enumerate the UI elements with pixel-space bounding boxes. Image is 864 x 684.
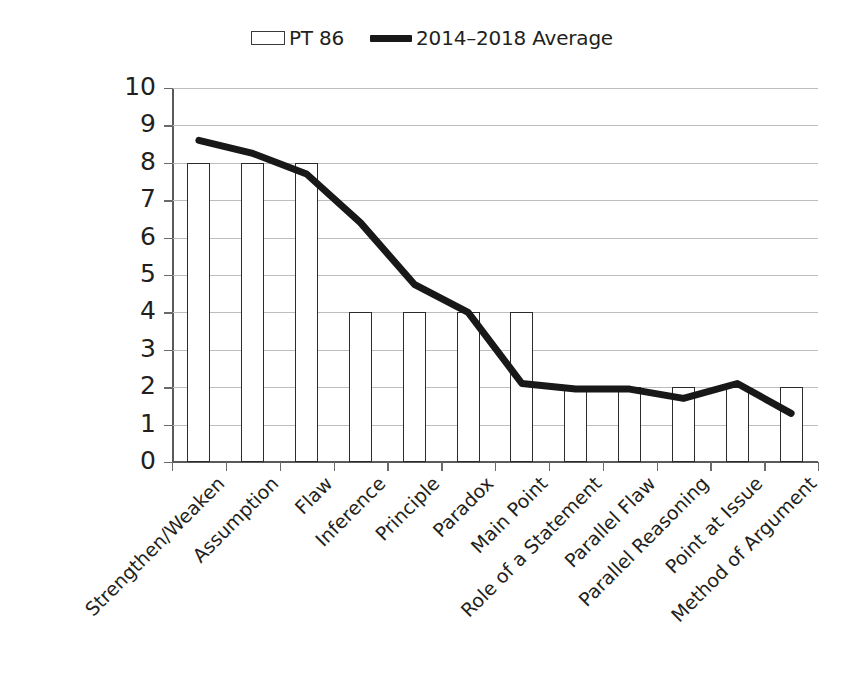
y-axis-tick-label: 8 xyxy=(116,149,156,174)
y-axis-tick xyxy=(164,312,173,313)
x-axis-tick xyxy=(172,462,173,471)
y-axis-tick-label: 3 xyxy=(116,336,156,361)
x-axis-tick xyxy=(549,462,550,471)
y-axis-tick xyxy=(164,88,173,89)
chart-root: PT 86 2014–2018 Average 109876543210 Str… xyxy=(0,0,864,684)
legend-entry-pt86: PT 86 xyxy=(251,26,344,50)
x-axis-labels: Strengthen/WeakenAssumptionFlawInference… xyxy=(0,462,864,684)
x-axis-tick xyxy=(226,462,227,471)
legend-entry-average: 2014–2018 Average xyxy=(370,26,613,50)
x-axis-tick xyxy=(387,462,388,471)
y-axis-tick xyxy=(164,163,173,164)
y-axis-tick xyxy=(164,200,173,201)
average-line-series xyxy=(172,88,818,462)
y-axis-tick-label: 10 xyxy=(116,74,156,99)
legend-label-pt86: PT 86 xyxy=(289,26,344,50)
y-axis-tick xyxy=(164,275,173,276)
legend-line-swatch-icon xyxy=(370,35,412,42)
x-axis-tick xyxy=(334,462,335,471)
y-axis-tick-label: 7 xyxy=(116,186,156,211)
y-axis-tick-label: 9 xyxy=(116,111,156,136)
y-axis-tick xyxy=(164,238,173,239)
y-axis-tick-label: 2 xyxy=(116,373,156,398)
average-line-path xyxy=(199,140,791,413)
x-axis-tick xyxy=(603,462,604,471)
x-axis-tick xyxy=(710,462,711,471)
y-axis-tick-label: 6 xyxy=(116,224,156,249)
y-axis-tick xyxy=(164,425,173,426)
y-axis-tick-label: 4 xyxy=(116,298,156,323)
x-axis-tick xyxy=(657,462,658,471)
x-axis-tick xyxy=(495,462,496,471)
x-axis-tick xyxy=(280,462,281,471)
legend-bar-swatch-icon xyxy=(251,31,285,45)
x-axis-tick xyxy=(441,462,442,471)
y-axis-tick xyxy=(164,350,173,351)
y-axis-tick xyxy=(164,125,173,126)
y-axis-tick-label: 1 xyxy=(116,411,156,436)
x-axis-tick xyxy=(818,462,819,471)
x-axis-tick xyxy=(764,462,765,471)
y-axis-tick-label: 5 xyxy=(116,261,156,286)
y-axis-tick xyxy=(164,387,173,388)
legend-label-average: 2014–2018 Average xyxy=(416,26,613,50)
x-axis-label-flaw: Flaw xyxy=(290,472,336,518)
